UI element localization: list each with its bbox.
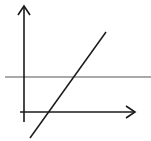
background [0,0,151,141]
diagram-canvas [0,0,151,141]
